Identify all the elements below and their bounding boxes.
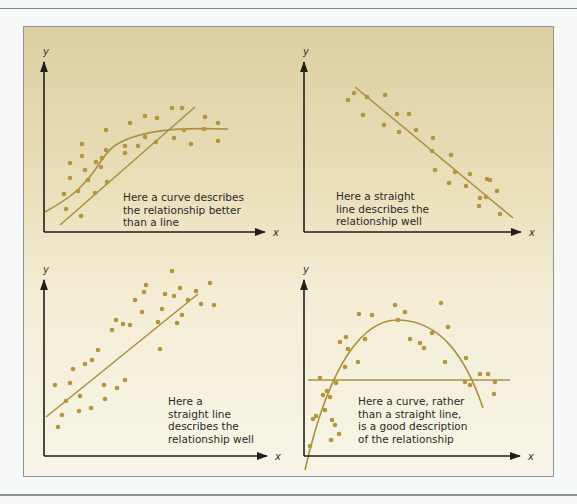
data-point: [93, 191, 98, 196]
data-point: [356, 360, 361, 365]
data-point: [393, 303, 398, 308]
x-axis-label: x: [528, 227, 535, 238]
data-point: [94, 160, 99, 165]
data-point: [178, 286, 183, 291]
data-point: [68, 161, 73, 166]
data-point: [422, 346, 427, 351]
data-point: [123, 144, 128, 149]
data-point: [180, 106, 185, 111]
data-point: [484, 195, 489, 200]
data-point: [363, 337, 368, 342]
data-point: [352, 91, 357, 96]
data-point: [357, 312, 362, 317]
data-point: [140, 310, 145, 315]
data-point: [433, 168, 438, 173]
data-point: [83, 168, 88, 173]
data-point: [477, 204, 482, 209]
data-point: [158, 347, 163, 352]
data-point: [212, 303, 217, 308]
panel-caption: Here astraight linedescribes therelation…: [168, 395, 254, 445]
data-point: [311, 417, 316, 422]
data-point: [99, 165, 104, 170]
data-point: [418, 341, 423, 346]
y-axis-label: y: [302, 264, 310, 275]
data-point: [346, 347, 351, 352]
data-point: [498, 212, 503, 217]
data-point: [468, 383, 473, 388]
data-point: [344, 335, 349, 340]
data-point: [170, 106, 175, 111]
data-point: [395, 112, 400, 117]
data-point: [60, 413, 65, 418]
data-point: [155, 116, 160, 121]
panel-curve-better-than-line: yxHere a curve describesthe relationship…: [42, 46, 279, 238]
data-point: [308, 444, 313, 449]
panel-curve-parabola: yxHere a curve, ratherthan a straight li…: [302, 264, 534, 470]
data-point: [102, 383, 107, 388]
data-point: [104, 128, 109, 133]
data-point: [493, 380, 498, 385]
data-point: [189, 142, 194, 147]
data-point: [105, 180, 110, 185]
data-point: [77, 409, 82, 414]
data-point: [76, 189, 81, 194]
data-point: [333, 423, 338, 428]
data-point: [446, 325, 451, 330]
data-point: [396, 318, 401, 323]
data-point: [170, 269, 175, 274]
data-point: [186, 298, 191, 303]
data-point: [80, 142, 85, 147]
data-point: [321, 393, 326, 398]
data-point: [64, 399, 69, 404]
data-point: [143, 114, 148, 119]
data-point: [121, 322, 126, 327]
data-point: [337, 432, 342, 437]
data-point: [56, 425, 61, 430]
data-point: [64, 207, 69, 212]
data-point: [361, 113, 366, 118]
data-point: [414, 128, 419, 133]
data-point: [199, 302, 204, 307]
data-point: [370, 313, 375, 318]
data-point: [194, 289, 199, 294]
data-point: [114, 318, 119, 323]
data-point: [53, 383, 58, 388]
data-point: [136, 144, 141, 149]
data-point: [96, 348, 101, 353]
data-point: [430, 331, 435, 336]
data-point: [318, 376, 323, 381]
data-point: [156, 320, 161, 325]
data-point: [449, 153, 454, 158]
data-point: [447, 181, 452, 186]
y-axis-label: y: [42, 46, 50, 57]
data-point: [478, 372, 483, 377]
data-point: [383, 93, 388, 98]
data-point: [216, 139, 221, 144]
data-point: [397, 130, 402, 135]
data-point: [128, 323, 133, 328]
scatter-panels: yxHere a curve describesthe relationship…: [0, 0, 577, 504]
data-point: [325, 389, 330, 394]
data-point: [216, 121, 221, 126]
data-point: [144, 283, 149, 288]
data-point: [208, 281, 213, 286]
data-point: [83, 362, 88, 367]
data-point: [71, 367, 76, 372]
data-point: [328, 395, 333, 400]
x-axis-label: x: [272, 227, 279, 238]
data-point: [68, 176, 73, 181]
data-point: [464, 356, 469, 361]
panel-caption: Here a straightline describes therelatio…: [336, 190, 429, 227]
data-point: [203, 115, 208, 120]
data-point: [78, 394, 83, 399]
data-point: [182, 128, 187, 133]
x-axis-label: x: [274, 451, 281, 462]
data-point: [133, 298, 138, 303]
data-point: [478, 196, 483, 201]
data-point: [172, 136, 177, 141]
x-axis-label: x: [527, 451, 534, 462]
data-point: [407, 112, 412, 117]
data-point: [408, 337, 413, 342]
panel-caption: Here a curve describesthe relationship b…: [123, 191, 244, 228]
data-point: [439, 301, 444, 306]
